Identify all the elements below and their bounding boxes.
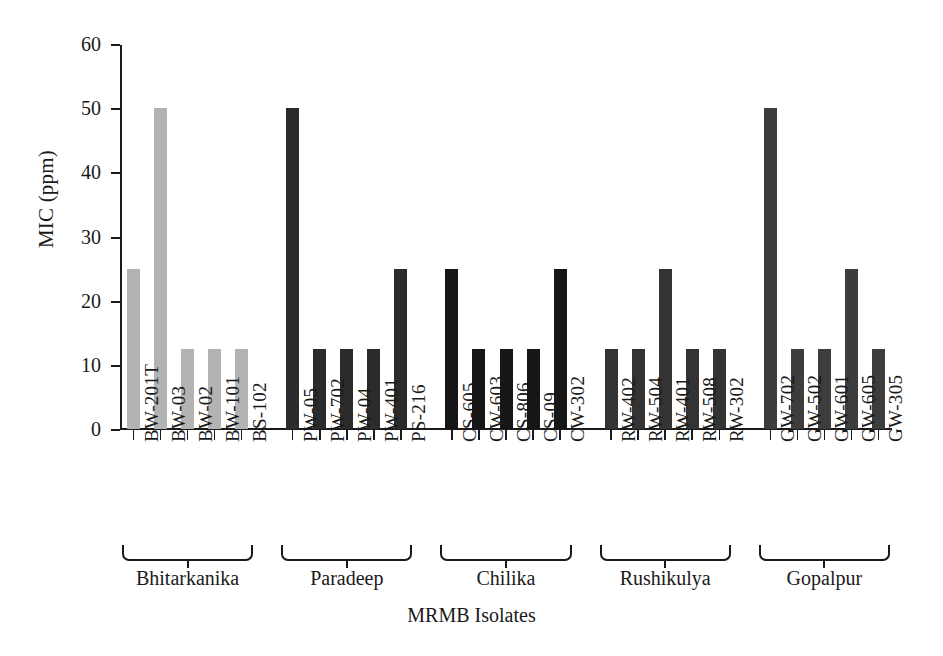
x-axis-tick-label: CS-605 [459,382,481,442]
y-axis-tick: 40 [111,172,120,174]
x-axis-tick-label: BW-02 [195,386,217,442]
group-label: Gopalpur [734,567,915,590]
x-axis-tick-label: BW-201T [141,364,163,442]
group-label: Chilika [415,567,596,590]
x-axis-title: MRMB Isolates [0,604,943,627]
y-axis-tick-label: 30 [81,226,101,249]
x-axis-tick-label: PS-216 [408,384,430,442]
y-axis-line [120,45,122,430]
x-axis-tick-label: RW-401 [672,377,694,442]
x-axis-tick-label: PW-401 [381,378,403,442]
chart-figure: MIC (ppm) 0102030405060 MRMB Isolates BW… [0,0,943,656]
bar [286,108,299,429]
x-axis-tick-label: RW-504 [645,377,667,442]
x-axis-tick [292,430,294,440]
x-axis-tick-label: CS-09 [540,392,562,442]
group-brace [440,545,571,561]
x-axis-tick-label: BS-102 [249,382,271,442]
x-axis-tick-label: GW-305 [885,375,907,442]
x-axis-tick [770,430,772,440]
x-axis-tick [451,430,453,440]
x-axis-tick-label: CW-302 [567,376,589,442]
x-axis-tick-label: CW-603 [486,376,508,442]
bar [445,269,458,429]
y-axis-tick: 30 [111,237,120,239]
bar [605,349,618,429]
x-axis-tick [610,430,612,440]
group-label: Bhitarkanika [97,567,278,590]
group-brace [600,545,731,561]
bar [764,108,777,429]
x-axis-tick-label: GW-605 [858,375,880,442]
y-axis-tick: 10 [111,365,120,367]
x-axis-tick-label: RW-508 [699,377,721,442]
x-axis-tick-label: GW-601 [831,375,853,442]
x-axis-tick-label: GW-502 [804,375,826,442]
group-label: Rushikulya [575,567,756,590]
x-axis-tick-label: PW-04 [354,388,376,442]
bar [127,269,140,429]
y-axis-tick: 20 [111,301,120,303]
x-axis-tick-label: BW-03 [168,386,190,442]
plot-area: 0102030405060 [120,45,892,430]
x-axis-tick-label: RW-302 [726,377,748,442]
y-axis-tick-label: 0 [91,418,101,441]
x-axis-tick-label: RW-402 [618,377,640,442]
x-axis-tick [133,430,135,440]
y-axis-tick: 0 [111,429,120,431]
y-axis-tick: 60 [111,44,120,46]
group-brace [759,545,890,561]
y-axis-tick-label: 20 [81,290,101,313]
x-axis-tick-label: PW-05 [300,388,322,442]
group-label: Paradeep [256,567,437,590]
x-axis-tick-label: BW-101 [222,376,244,442]
group-brace [122,545,253,561]
y-axis-tick-label: 60 [81,33,101,56]
x-axis-tick-label: GW-702 [777,375,799,442]
x-axis-tick-label: CS-806 [513,382,535,442]
y-axis-tick-label: 50 [81,97,101,120]
y-axis-tick: 50 [111,108,120,110]
y-axis-tick-label: 10 [81,354,101,377]
y-axis-title: MIC (ppm) [34,150,59,248]
y-axis-tick-label: 40 [81,161,101,184]
x-axis-tick-label: PW-702 [327,378,349,442]
group-brace [281,545,412,561]
